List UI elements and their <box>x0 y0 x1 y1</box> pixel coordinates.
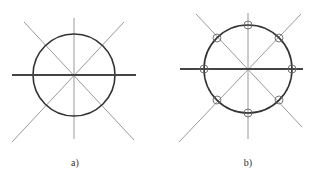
diagram-canvas <box>0 0 314 183</box>
diagonal-line <box>196 14 302 127</box>
figure-a-label: a) <box>71 157 79 168</box>
figure-a <box>12 18 136 142</box>
figure-b <box>179 13 303 142</box>
diagonal-line <box>179 14 301 142</box>
diagonal-line <box>24 22 134 140</box>
diagonal-line <box>12 22 124 142</box>
figure-b-label: b) <box>244 157 252 168</box>
